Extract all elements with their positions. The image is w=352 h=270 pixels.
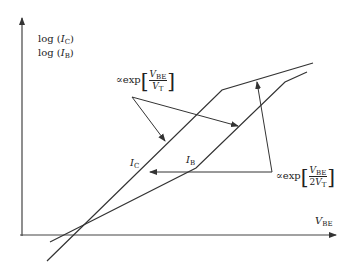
ideal-slope-annotation: ∝exp[VBEVT] (116, 70, 175, 91)
ic-curve-label: IC (130, 158, 139, 168)
y-label-prefix: log ( (38, 47, 61, 58)
den-var: V (152, 81, 159, 91)
ib-curve-label: IB (186, 155, 195, 165)
base-current-curve (50, 72, 307, 242)
y-label-sub: B (65, 52, 70, 60)
x-label-sub: BE (322, 220, 332, 228)
y-label-prefix: log ( (38, 33, 61, 44)
ideal-annotation-arrow-ic (132, 97, 165, 141)
proportional-exp: ∝exp (116, 74, 141, 85)
y-label-sub: C (65, 38, 70, 46)
y-axis-label-ic: log (IC) (38, 34, 74, 44)
curve-label-sub: C (134, 162, 139, 170)
den-sub: T (159, 85, 164, 93)
ideal-annotation-arrow-ib (132, 97, 238, 126)
x-axis-label: VBE (315, 216, 333, 226)
nonideal-slope-annotation: ∝exp[VBE2VT] (276, 166, 335, 187)
num-sub: BE (156, 73, 166, 81)
num-sub: BE (316, 169, 326, 177)
den-sub: T (322, 181, 327, 189)
den-var: V (315, 177, 322, 187)
curve-label-sub: B (190, 159, 195, 167)
nonideal-annotation-arrow-high (257, 82, 272, 172)
y-label-suffix: ) (70, 33, 74, 44)
y-label-suffix: ) (70, 47, 74, 58)
proportional-exp: ∝exp (276, 170, 301, 181)
y-axis-label-ib: log (IB) (38, 48, 74, 58)
